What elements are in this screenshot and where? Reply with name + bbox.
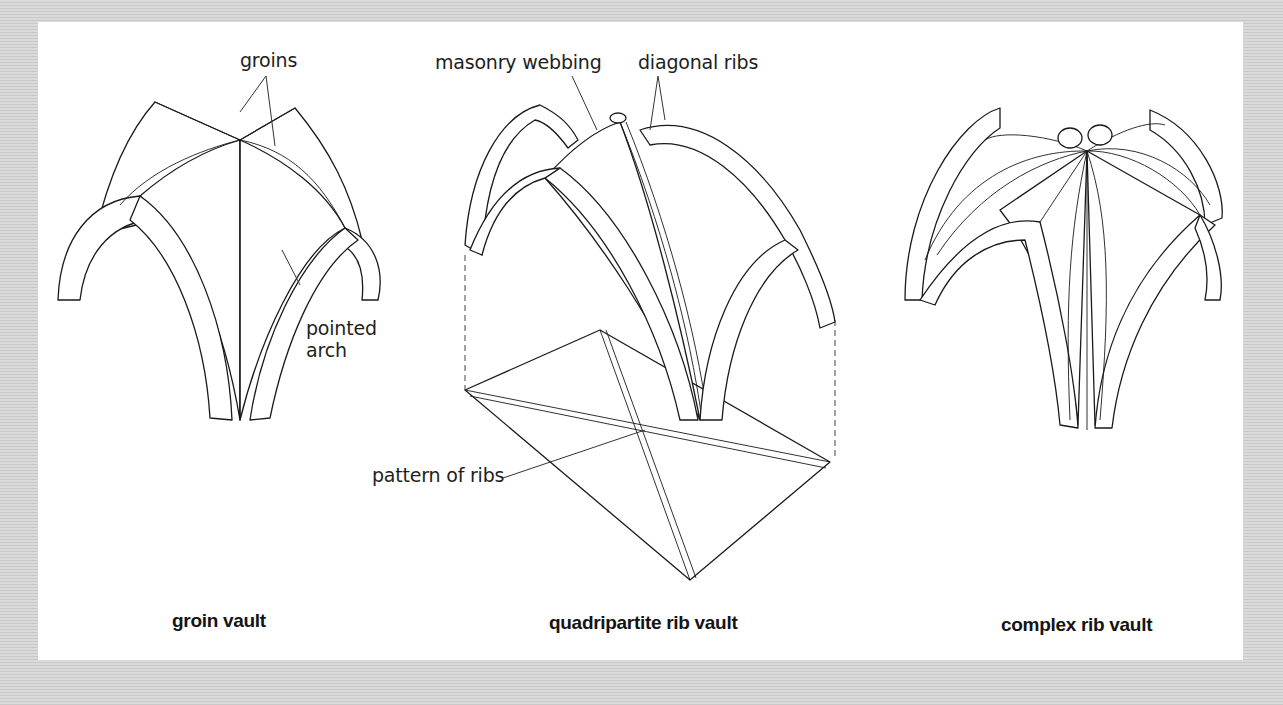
caption-quadripartite-rib-vault: quadripartite rib vault bbox=[549, 612, 737, 634]
caption-groin-vault: groin vault bbox=[172, 610, 266, 632]
groin-vault-drawing bbox=[58, 102, 380, 420]
complex-vault-drawing bbox=[905, 108, 1222, 430]
rib-pattern-plan bbox=[465, 330, 830, 580]
label-masonry-webbing: masonry webbing bbox=[435, 51, 602, 73]
label-diagonal-ribs: diagonal ribs bbox=[638, 51, 758, 73]
vault-illustrations bbox=[0, 0, 1283, 705]
label-groins: groins bbox=[240, 49, 297, 71]
quadripartite-vault-drawing bbox=[465, 105, 835, 580]
label-pattern-of-ribs: pattern of ribs bbox=[372, 464, 504, 486]
label-pointed-arch: pointed arch bbox=[306, 317, 377, 361]
caption-complex-rib-vault: complex rib vault bbox=[1001, 614, 1152, 636]
